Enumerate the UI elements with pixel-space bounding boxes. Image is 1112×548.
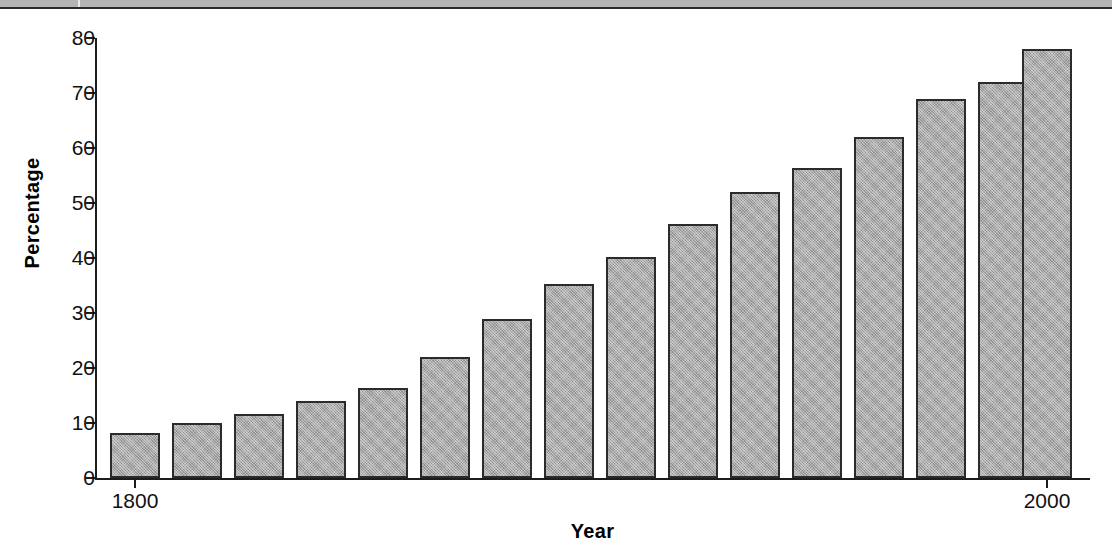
bar: [978, 82, 1028, 478]
bar: [544, 284, 594, 478]
bar: [234, 414, 284, 478]
bar: [792, 168, 842, 478]
bar: [358, 388, 408, 478]
plot-area: 01020304050607080 18002000 Percentage Ye…: [0, 11, 1112, 548]
bar: [916, 99, 966, 479]
bar: [296, 401, 346, 478]
scan-artifact-nick: [78, 0, 80, 7]
bar: [730, 192, 780, 478]
bar: [1022, 49, 1072, 478]
bar-chart-figure: 01020304050607080 18002000 Percentage Ye…: [0, 11, 1112, 548]
bar: [420, 357, 470, 478]
bar: [668, 224, 718, 478]
bar-series: [0, 11, 1112, 548]
scan-artifact-band: [0, 0, 1112, 9]
x-axis-title: Year: [95, 521, 1090, 541]
bar: [606, 257, 656, 478]
bar: [172, 423, 222, 478]
bar: [482, 319, 532, 479]
bar: [854, 137, 904, 478]
bar: [110, 433, 160, 478]
y-axis-title: Percentage: [22, 133, 42, 293]
